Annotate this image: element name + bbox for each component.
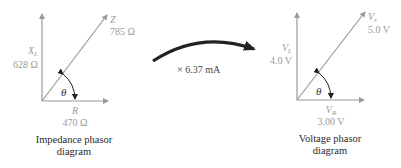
xl-label: XL <box>8 45 38 60</box>
r-symbol: R <box>72 105 78 116</box>
z-vector <box>42 15 107 101</box>
theta-label: θ <box>316 86 321 97</box>
caption-line-2: diagram <box>280 145 380 157</box>
caption-line-2: diagram <box>20 146 128 158</box>
z-value: 785 Ω <box>110 26 135 37</box>
vs-value: 5.0 V <box>368 24 390 35</box>
vl-value: 4.0 V <box>258 55 292 66</box>
voltage-caption: Voltage phasor diagram <box>280 133 380 157</box>
xl-value: 628 Ω <box>4 59 38 70</box>
theta-label: θ <box>61 87 66 98</box>
impedance-phasor-diagram <box>42 14 108 101</box>
caption-line-1: Voltage phasor <box>280 133 380 145</box>
r-label: R <box>60 105 90 116</box>
vl-subscript: L <box>288 47 292 55</box>
r-value: 470 Ω <box>55 117 95 128</box>
xl-subscript: L <box>34 50 38 58</box>
voltage-phasor-diagram <box>297 12 365 100</box>
impedance-caption: Impedance phasor diagram <box>20 134 128 158</box>
vs-vector <box>297 12 365 100</box>
vs-subscript: s <box>374 16 377 24</box>
z-symbol: Z <box>110 14 116 25</box>
vr-value: 3.00 V <box>309 116 353 127</box>
transform-label: × 6.37 mA <box>177 64 220 75</box>
z-label: Z <box>110 14 116 25</box>
transform-arrow <box>153 42 254 61</box>
caption-line-1: Impedance phasor <box>20 134 128 146</box>
